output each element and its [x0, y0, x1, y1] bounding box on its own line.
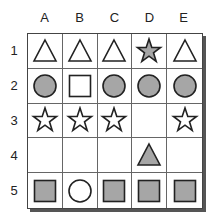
- cell-b2: [63, 69, 98, 104]
- cell-a3: [28, 104, 63, 139]
- cell-e2: [167, 69, 202, 104]
- column-label-e: E: [166, 10, 201, 25]
- cell-c4: [98, 138, 133, 173]
- cell-e3: [167, 104, 202, 139]
- cell-d4: [132, 138, 167, 173]
- cell-a1: [28, 34, 63, 69]
- cell-e4: [167, 138, 202, 173]
- cell-b3: [63, 104, 98, 139]
- row-label-1: 1: [8, 43, 20, 58]
- gray-circle-icon: [31, 72, 59, 100]
- white-triangle-icon: [66, 37, 94, 65]
- white-triangle-icon: [100, 37, 128, 65]
- gray-square-icon: [171, 177, 199, 205]
- row-label-2: 2: [8, 78, 20, 93]
- cell-a5: [28, 173, 63, 208]
- cell-e5: [167, 173, 202, 208]
- cell-c2: [98, 69, 133, 104]
- cell-d3: [132, 104, 167, 139]
- white-square-icon: [66, 72, 94, 100]
- gray-circle-icon: [100, 72, 128, 100]
- white-triangle-icon: [171, 37, 199, 65]
- white-star-icon: [100, 106, 128, 134]
- shape-grid: [27, 33, 203, 209]
- white-circle-icon: [66, 177, 94, 205]
- white-star-icon: [31, 106, 59, 134]
- row-label-3: 3: [8, 113, 20, 128]
- gray-square-icon: [31, 177, 59, 205]
- cell-c3: [98, 104, 133, 139]
- column-label-a: A: [27, 10, 62, 25]
- gray-circle-icon: [135, 72, 163, 100]
- white-star-icon: [66, 106, 94, 134]
- cell-b5: [63, 173, 98, 208]
- cell-c5: [98, 173, 133, 208]
- gray-square-icon: [135, 177, 163, 205]
- cell-b4: [63, 138, 98, 173]
- gray-circle-icon: [171, 72, 199, 100]
- cell-a4: [28, 138, 63, 173]
- cell-d5: [132, 173, 167, 208]
- cell-d1: [132, 34, 167, 69]
- white-star-icon: [171, 106, 199, 134]
- cell-c1: [98, 34, 133, 69]
- gray-triangle-icon: [135, 141, 163, 169]
- cell-e1: [167, 34, 202, 69]
- cell-a2: [28, 69, 63, 104]
- white-triangle-icon: [31, 37, 59, 65]
- column-label-b: B: [62, 10, 97, 25]
- row-label-4: 4: [8, 148, 20, 163]
- gray-square-icon: [100, 177, 128, 205]
- column-label-d: D: [132, 10, 167, 25]
- row-label-5: 5: [8, 183, 20, 198]
- gray-star-icon: [135, 37, 163, 65]
- column-label-c: C: [97, 10, 132, 25]
- cell-b1: [63, 34, 98, 69]
- cell-d2: [132, 69, 167, 104]
